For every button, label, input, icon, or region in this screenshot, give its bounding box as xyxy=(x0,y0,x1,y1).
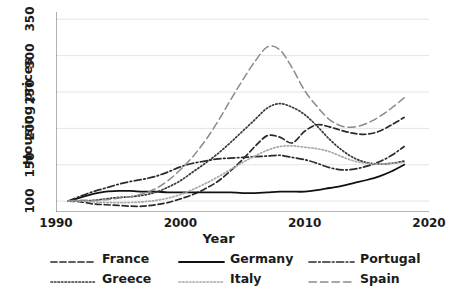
legend-label: France xyxy=(102,252,149,265)
series-line-spain xyxy=(68,46,404,201)
legend-label: Spain xyxy=(360,272,400,285)
y-tick-label: 350 xyxy=(23,0,37,41)
legend-key-dotted-icon xyxy=(50,273,97,285)
legend-item-italy[interactable]: Italy xyxy=(178,270,262,287)
legend-item-spain[interactable]: Spain xyxy=(308,270,400,287)
plot-area xyxy=(56,12,429,212)
series-line-germany xyxy=(68,165,404,201)
legend-item-portugal[interactable]: Portugal xyxy=(308,250,420,267)
legend-item-france[interactable]: France xyxy=(50,250,149,267)
x-tick-label: 2000 xyxy=(150,216,210,230)
legend-label: Greece xyxy=(102,272,151,285)
legend-label: Germany xyxy=(230,252,293,265)
legend-label: Italy xyxy=(230,272,262,285)
legend-key-solid-icon xyxy=(178,253,225,265)
x-tick-label: 2020 xyxy=(399,216,450,230)
x-axis-title: Year xyxy=(0,231,437,246)
x-tick-label: 1990 xyxy=(26,216,86,230)
series-canvas xyxy=(56,12,429,212)
x-tick-label: 2010 xyxy=(275,216,335,230)
series-line-italy xyxy=(68,146,404,203)
legend-key-dotted-light-icon xyxy=(178,273,225,285)
legend-item-greece[interactable]: Greece xyxy=(50,270,151,287)
legend-key-dashed-icon xyxy=(50,253,97,265)
chart-legend: FranceGermanyPortugalGreeceItalySpain xyxy=(0,248,437,289)
legend-label: Portugal xyxy=(360,252,420,265)
legend-item-germany[interactable]: Germany xyxy=(178,250,293,267)
legend-key-dashdot-icon xyxy=(308,253,355,265)
legend-key-longdash-icon xyxy=(308,273,355,285)
series-line-greece xyxy=(68,104,404,202)
